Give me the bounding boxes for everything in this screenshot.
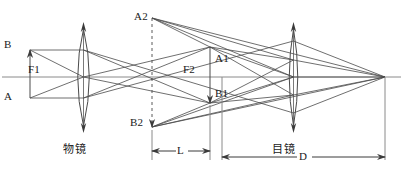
optical-ray-diagram bbox=[0, 0, 403, 186]
label-dimension-D: D bbox=[299, 151, 307, 162]
label-objective-focus-F1: F1 bbox=[28, 64, 40, 75]
label-image-top-A1: A1 bbox=[215, 53, 229, 64]
rays-virtual-image bbox=[152, 18, 294, 127]
label-virtual-top-A2: A2 bbox=[134, 11, 148, 22]
label-eyepiece-focus-F2: F2 bbox=[183, 64, 195, 75]
rays-objective bbox=[30, 47, 210, 103]
figure-root: B A F1 A2 B2 F2 A1 B1 物镜 目镜 L D bbox=[0, 0, 403, 186]
label-dimension-L: L bbox=[177, 145, 184, 156]
label-image-bottom-B1: B1 bbox=[215, 88, 228, 99]
label-objective-name: 物镜 bbox=[63, 140, 87, 156]
label-virtual-bottom-B2: B2 bbox=[130, 117, 143, 128]
label-eyepiece-name: 目镜 bbox=[272, 140, 296, 156]
label-object-top-B: B bbox=[4, 39, 12, 50]
dimension-extension-lines bbox=[152, 77, 222, 160]
label-object-bottom-A: A bbox=[4, 91, 12, 102]
rays-long-traverse bbox=[84, 18, 386, 127]
